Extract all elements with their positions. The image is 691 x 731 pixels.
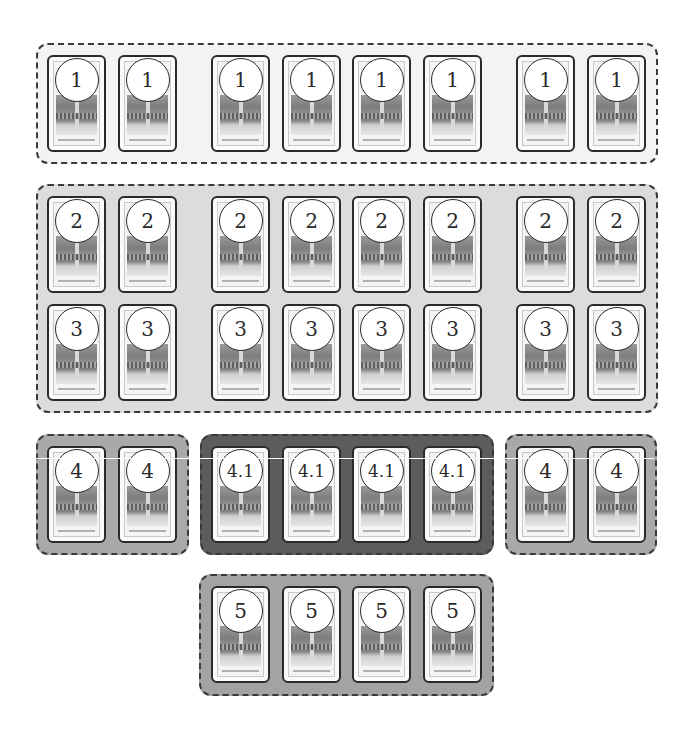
card-caption-line [293,530,330,532]
card[interactable]: 1 [352,55,411,152]
card-number-badge: 3 [595,307,639,351]
card-number-badge: 2 [290,199,334,243]
card-caption-line [598,530,635,532]
card-number-badge: 2 [126,199,170,243]
card[interactable]: 4.1 [423,446,482,543]
card-caption-line [434,670,471,672]
card-caption-line [527,280,564,282]
card-caption-line [129,280,166,282]
card-caption-line [222,388,259,390]
card-caption-line [598,139,635,141]
card[interactable]: 3 [423,304,482,401]
card[interactable]: 4.1 [282,446,341,543]
card-caption-line [363,530,400,532]
card-caption-line [222,280,259,282]
card[interactable]: 1 [282,55,341,152]
card-caption-line [293,139,330,141]
card-number-badge: 1 [595,58,639,102]
card-number-badge: 4.1 [219,449,263,493]
card-number-badge: 3 [290,307,334,351]
card[interactable]: 1 [211,55,270,152]
card[interactable]: 2 [423,196,482,293]
card-number-badge: 3 [431,307,475,351]
card-number-badge: 2 [524,199,568,243]
card-number-badge: 5 [360,589,404,633]
card-number-badge: 1 [126,58,170,102]
card-caption-line [434,139,471,141]
card-number-badge: 4 [126,449,170,493]
card-number-badge: 1 [431,58,475,102]
card[interactable]: 4 [47,446,106,543]
card-caption-line [129,530,166,532]
card[interactable]: 2 [587,196,646,293]
card[interactable]: 2 [47,196,106,293]
card-number-badge: 2 [360,199,404,243]
card[interactable]: 4.1 [211,446,270,543]
card[interactable]: 4 [587,446,646,543]
card[interactable]: 2 [516,196,575,293]
card-number-badge: 3 [219,307,263,351]
card[interactable]: 4.1 [352,446,411,543]
card-number-badge: 5 [219,589,263,633]
card-number-badge: 2 [219,199,263,243]
card-number-badge: 1 [290,58,334,102]
card-caption-line [293,388,330,390]
card[interactable]: 4 [516,446,575,543]
card[interactable]: 3 [282,304,341,401]
card[interactable]: 1 [47,55,106,152]
card-number-badge: 4 [524,449,568,493]
card[interactable]: 5 [282,586,341,683]
card[interactable]: 2 [118,196,177,293]
card[interactable]: 3 [587,304,646,401]
card-caption-line [527,530,564,532]
card-caption-line [293,280,330,282]
card-number-badge: 2 [55,199,99,243]
card[interactable]: 2 [211,196,270,293]
card-number-badge: 5 [431,589,475,633]
card-caption-line [129,388,166,390]
card-caption-line [598,388,635,390]
card[interactable]: 3 [352,304,411,401]
card[interactable]: 1 [516,55,575,152]
card-caption-line [527,388,564,390]
card-caption-line [222,139,259,141]
card-number-badge: 4 [55,449,99,493]
card-caption-line [222,670,259,672]
card[interactable]: 3 [47,304,106,401]
card[interactable]: 1 [118,55,177,152]
divider-line [35,458,654,459]
card-number-badge: 3 [126,307,170,351]
card[interactable]: 5 [211,586,270,683]
card-number-badge: 5 [290,589,334,633]
card[interactable]: 2 [352,196,411,293]
card-number-badge: 4 [595,449,639,493]
card[interactable]: 5 [352,586,411,683]
card-caption-line [527,139,564,141]
card[interactable]: 3 [516,304,575,401]
card[interactable]: 3 [118,304,177,401]
card[interactable]: 2 [282,196,341,293]
card-caption-line [58,280,95,282]
card[interactable]: 3 [211,304,270,401]
card[interactable]: 5 [423,586,482,683]
card-caption-line [222,530,259,532]
card-caption-line [363,280,400,282]
card[interactable]: 4 [118,446,177,543]
card-caption-line [434,388,471,390]
card-caption-line [434,280,471,282]
card-number-badge: 3 [55,307,99,351]
card-number-badge: 1 [55,58,99,102]
card-caption-line [58,139,95,141]
card[interactable]: 1 [587,55,646,152]
card-number-badge: 4.1 [290,449,334,493]
card-caption-line [363,670,400,672]
card-caption-line [363,139,400,141]
card-caption-line [58,388,95,390]
card-caption-line [58,530,95,532]
card-number-badge: 3 [360,307,404,351]
card-caption-line [363,388,400,390]
card-number-badge: 2 [595,199,639,243]
card-caption-line [434,530,471,532]
card[interactable]: 1 [423,55,482,152]
card-number-badge: 1 [219,58,263,102]
